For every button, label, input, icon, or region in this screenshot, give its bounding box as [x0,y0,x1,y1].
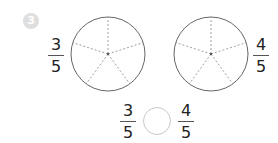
comparison-right-fraction: 4 5 [178,103,194,141]
numerator: 3 [48,37,64,53]
numerator: 3 [120,103,136,119]
fraction-bar [253,55,269,56]
problem-number-badge: 3 [23,13,39,29]
right-pie-circle-divided-into-fifths [173,16,249,92]
denominator: 5 [253,59,269,75]
denominator: 5 [178,125,194,141]
comparison-answer-circle[interactable] [143,107,171,135]
numerator: 4 [253,37,269,53]
numerator: 4 [178,103,194,119]
fraction-bar [120,121,136,122]
comparison-left-fraction: 3 5 [120,103,136,141]
fraction-bar [48,55,64,56]
denominator: 5 [120,125,136,141]
right-pie-fraction: 4 5 [253,37,269,75]
denominator: 5 [48,59,64,75]
left-pie-circle-divided-into-fifths [70,16,146,92]
fraction-bar [178,121,194,122]
left-pie-fraction: 3 5 [48,37,64,75]
